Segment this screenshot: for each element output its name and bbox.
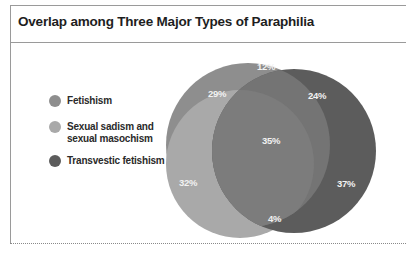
region-label-35: 35% xyxy=(262,135,281,146)
region-label-29: 29% xyxy=(208,88,227,99)
region-label-24: 24% xyxy=(308,90,327,101)
region-label-4: 4% xyxy=(268,213,282,224)
region-label-37: 37% xyxy=(337,178,356,189)
region-label-12: 12% xyxy=(257,61,276,72)
region-label-32: 32% xyxy=(179,177,198,188)
venn-diagram: 12% 29% 24% 35% 32% 37% 4% xyxy=(0,0,406,253)
